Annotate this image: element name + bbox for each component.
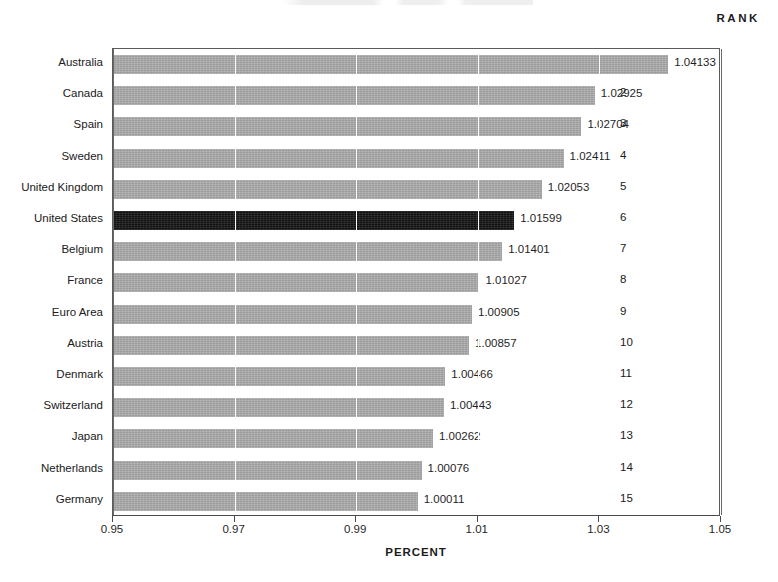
bar-value-label: 1.00466 bbox=[451, 368, 493, 380]
x-axis-title: PERCENT bbox=[112, 546, 720, 558]
bar bbox=[113, 55, 668, 74]
bar-row: 1.00443 bbox=[113, 392, 719, 423]
cropped-title-remnant bbox=[283, 0, 533, 5]
bar-value-label: 1.01401 bbox=[508, 243, 550, 255]
category-label: Austria bbox=[0, 337, 103, 349]
rank-column-header: RANK bbox=[716, 12, 760, 24]
category-label: France bbox=[0, 274, 103, 286]
bar-row: 1.02053 bbox=[113, 174, 719, 205]
bar-row: 1.00905 bbox=[113, 299, 719, 330]
x-axis-tick bbox=[720, 516, 721, 522]
bar-row: 1.01599 bbox=[113, 205, 719, 236]
category-label: Japan bbox=[0, 430, 103, 442]
category-label: Denmark bbox=[0, 368, 103, 380]
plot-area: AustraliaCanadaSpainSwedenUnited Kingdom… bbox=[112, 48, 720, 516]
bar-value-label: 1.00011 bbox=[424, 493, 465, 505]
bar-row: 1.02411 bbox=[113, 143, 719, 174]
bar bbox=[113, 273, 479, 292]
bar-row: 1.02704 bbox=[113, 111, 719, 142]
category-labels: AustraliaCanadaSpainSwedenUnited Kingdom… bbox=[0, 49, 103, 515]
gridline-1.05 bbox=[721, 49, 722, 515]
bar bbox=[113, 367, 445, 386]
x-axis-tick-label: 0.99 bbox=[344, 523, 366, 535]
bar bbox=[113, 242, 502, 261]
bar bbox=[113, 336, 469, 355]
gridline-0.95 bbox=[113, 49, 114, 515]
bar-chart: RANK AustraliaCanadaSpainSwedenUnited Ki… bbox=[0, 0, 778, 582]
gridline-0.99 bbox=[356, 49, 357, 515]
category-label: Switzerland bbox=[0, 399, 103, 411]
bar bbox=[113, 429, 433, 448]
bar-value-label: 1.02925 bbox=[601, 87, 643, 99]
bar bbox=[113, 86, 595, 105]
category-label: Netherlands bbox=[0, 462, 103, 474]
x-axis-tick-label: 1.01 bbox=[466, 523, 488, 535]
bar-value-label: 1.02053 bbox=[548, 181, 590, 193]
x-axis-tick-label: 0.95 bbox=[101, 523, 123, 535]
category-label: Belgium bbox=[0, 243, 103, 255]
bar bbox=[113, 305, 472, 324]
bar-row: 1.04133 bbox=[113, 49, 719, 80]
bar-value-label: 1.00076 bbox=[428, 462, 470, 474]
bar-row: 1.00857 bbox=[113, 330, 719, 361]
bar-value-label: 1.04133 bbox=[674, 56, 716, 68]
category-label: Canada bbox=[0, 87, 103, 99]
bar bbox=[113, 461, 422, 480]
category-label: United States bbox=[0, 212, 103, 224]
bar-row: 1.02925 bbox=[113, 80, 719, 111]
bar bbox=[113, 398, 444, 417]
bar-value-label: 1.00857 bbox=[475, 337, 517, 349]
category-label: Spain bbox=[0, 118, 103, 130]
bar bbox=[113, 117, 581, 136]
bar-value-label: 1.01599 bbox=[520, 212, 562, 224]
bar-row: 1.01027 bbox=[113, 267, 719, 298]
category-label: Euro Area bbox=[0, 306, 103, 318]
category-label: Germany bbox=[0, 493, 103, 505]
gridline-0.97 bbox=[235, 49, 236, 515]
bar-row: 1.01401 bbox=[113, 236, 719, 267]
category-label: Sweden bbox=[0, 150, 103, 162]
gridline-1.03 bbox=[599, 49, 600, 515]
gridline-1.01 bbox=[478, 49, 479, 515]
x-axis-tick-label: 0.97 bbox=[222, 523, 244, 535]
bar-row: 1.00466 bbox=[113, 361, 719, 392]
bar bbox=[113, 492, 418, 511]
bar bbox=[113, 149, 564, 168]
bar-value-label: 1.02411 bbox=[570, 150, 611, 162]
bar-value-label: 1.00905 bbox=[478, 306, 520, 318]
bar-row: 1.00076 bbox=[113, 455, 719, 486]
bar-value-label: 1.00262 bbox=[439, 430, 481, 442]
category-label: United Kingdom bbox=[0, 181, 103, 193]
bar bbox=[113, 211, 514, 230]
bar-row: 1.00262 bbox=[113, 423, 719, 454]
bar-row: 1.00011 bbox=[113, 486, 719, 517]
bar-value-label: 1.02704 bbox=[587, 118, 629, 130]
category-label: Australia bbox=[0, 56, 103, 68]
bar-value-label: 1.00443 bbox=[450, 399, 492, 411]
bar-value-label: 1.01027 bbox=[485, 274, 527, 286]
x-axis-tick-label: 1.03 bbox=[587, 523, 609, 535]
bar-rows: AustraliaCanadaSpainSwedenUnited Kingdom… bbox=[113, 49, 719, 515]
x-axis-tick-label: 1.05 bbox=[709, 523, 731, 535]
